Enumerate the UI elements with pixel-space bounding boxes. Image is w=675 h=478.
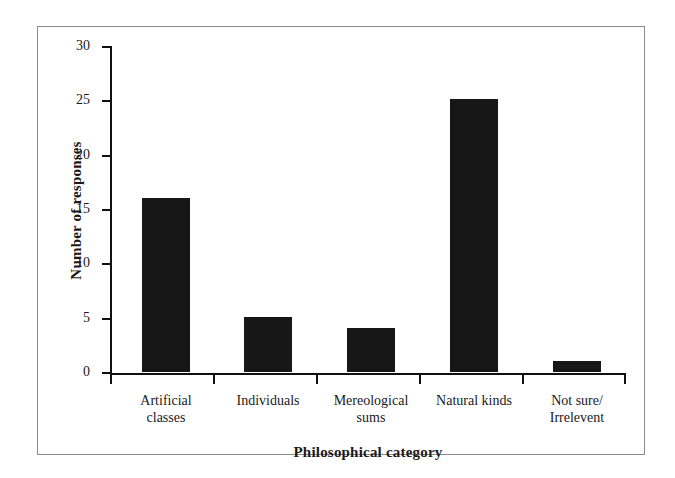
y-tick-label-10: 10 [60, 255, 90, 271]
y-tick-label-30: 30 [60, 38, 90, 54]
x-tick-label-line1: Natural kinds [414, 392, 534, 409]
x-tick-3 [419, 375, 421, 384]
y-tick-10: 10 [102, 263, 111, 265]
bar-natural-kinds [450, 99, 498, 372]
bar-mereological-sums [347, 328, 395, 372]
x-tick-5 [624, 375, 626, 384]
y-tick-label-0: 0 [60, 364, 90, 380]
x-axis-line [110, 373, 626, 375]
plot-area: 0 5 10 15 20 25 30 [111, 46, 625, 373]
x-tick-label-line2: Irrelevent [517, 409, 637, 426]
x-tick-label-line2: classes [106, 409, 226, 426]
y-tick-25: 25 [102, 100, 111, 102]
x-tick-label-line1: Mereological [311, 392, 431, 409]
y-tick-label-25: 25 [60, 92, 90, 108]
x-tick-label-not-sure-irrelevent: Not sure/ Irrelevent [517, 392, 637, 426]
x-tick-label-natural-kinds: Natural kinds [414, 392, 534, 409]
y-tick-15: 15 [102, 209, 111, 211]
y-tick-label-5: 5 [60, 310, 90, 326]
x-tick-2 [316, 375, 318, 384]
y-tick-20: 20 [102, 155, 111, 157]
bar-artificial-classes [142, 198, 190, 372]
x-tick-label-line2: sums [311, 409, 431, 426]
x-tick-4 [522, 375, 524, 384]
x-tick-0 [110, 375, 112, 384]
bar-individuals [244, 317, 292, 372]
figure: Number of responses 0 5 10 15 20 25 [0, 0, 675, 478]
x-axis-title: Philosophical category [111, 444, 625, 461]
x-tick-label-line1: Individuals [208, 392, 328, 409]
x-tick-label-mereological-sums: Mereological sums [311, 392, 431, 426]
y-tick-label-20: 20 [60, 147, 90, 163]
y-tick-0: 0 [102, 372, 111, 374]
y-tick-30: 30 [102, 46, 111, 48]
x-tick-label-individuals: Individuals [208, 392, 328, 409]
figure-frame: Number of responses 0 5 10 15 20 25 [37, 26, 645, 455]
x-tick-1 [213, 375, 215, 384]
x-tick-label-line1: Not sure/ [517, 392, 637, 409]
y-tick-label-15: 15 [60, 201, 90, 217]
bar-not-sure-irrelevent [553, 361, 601, 372]
y-tick-5: 5 [102, 318, 111, 320]
